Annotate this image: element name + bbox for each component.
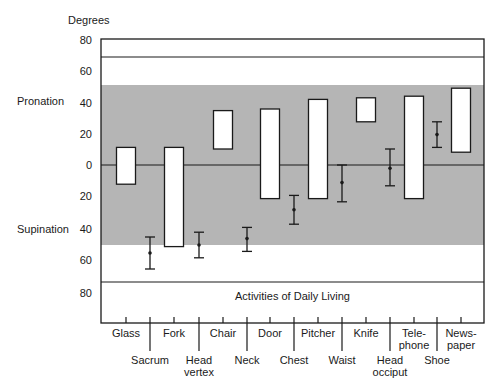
- x-label-head-occiput: Head: [377, 354, 403, 366]
- range-bar-door: [261, 109, 280, 199]
- x-label-head-occiput: occiput: [373, 366, 408, 378]
- range-bar-knife: [357, 98, 376, 122]
- y-tick-label: 20: [80, 190, 92, 202]
- y-axis-label: Degrees: [68, 14, 110, 26]
- x-label-head-vertex: Head: [186, 354, 212, 366]
- x-label-pitcher: Pitcher: [301, 327, 336, 339]
- pronation-label: Pronation: [17, 95, 64, 107]
- x-label-sacrum: Sacrum: [131, 354, 169, 366]
- y-tick-label: 40: [80, 97, 92, 109]
- x-label-glass: Glass: [112, 327, 141, 339]
- y-tick-label: 0: [86, 159, 92, 171]
- range-bar-pitcher: [309, 99, 328, 198]
- x-label-chest: Chest: [280, 354, 309, 366]
- chart: DegreesPronationSupination80604020020406…: [0, 0, 497, 387]
- x-label-newspaper: News-: [445, 327, 477, 339]
- x-label-telephone: phone: [399, 339, 430, 351]
- x-label-door: Door: [258, 327, 282, 339]
- y-tick-label: 60: [80, 65, 92, 77]
- y-tick-label: 20: [80, 128, 92, 140]
- y-tick-label: 80: [80, 34, 92, 46]
- x-label-waist: Waist: [328, 354, 355, 366]
- x-axis-label: Activities of Daily Living: [235, 290, 350, 302]
- range-bar-telephone: [405, 96, 424, 198]
- y-tick-label: 80: [80, 287, 92, 299]
- x-label-knife: Knife: [353, 327, 378, 339]
- range-bar-newspaper: [452, 88, 471, 152]
- x-label-chair: Chair: [210, 327, 237, 339]
- x-label-neck: Neck: [234, 354, 260, 366]
- supination-label: Supination: [17, 223, 69, 235]
- x-label-telephone: Tele-: [402, 327, 426, 339]
- range-bar-glass: [117, 147, 136, 184]
- x-label-newspaper: paper: [447, 339, 475, 351]
- x-label-shoe: Shoe: [424, 354, 450, 366]
- y-tick-label: 60: [80, 254, 92, 266]
- range-bar-chair: [214, 111, 233, 149]
- x-label-head-vertex: vertex: [184, 366, 214, 378]
- y-tick-label: 40: [80, 223, 92, 235]
- range-bar-fork: [165, 147, 184, 246]
- x-label-fork: Fork: [163, 327, 186, 339]
